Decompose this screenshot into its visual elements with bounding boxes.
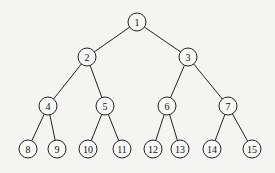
tree-edge-4-8 bbox=[32, 114, 44, 141]
node-label: 12 bbox=[148, 144, 158, 155]
tree-edge-2-5 bbox=[90, 65, 102, 97]
node-label: 3 bbox=[186, 52, 191, 63]
node-label: 15 bbox=[247, 144, 257, 155]
tree-node-6: 6 bbox=[158, 97, 176, 115]
node-label: 8 bbox=[26, 144, 31, 155]
tree-node-4: 4 bbox=[39, 97, 57, 115]
tree-node-5: 5 bbox=[96, 97, 114, 115]
binary-tree-diagram: 123456789101112131415 bbox=[0, 0, 275, 173]
node-label: 2 bbox=[85, 52, 90, 63]
tree-node-14: 14 bbox=[203, 140, 221, 158]
tree-nodes: 123456789101112131415 bbox=[19, 13, 261, 158]
node-label: 5 bbox=[103, 101, 108, 112]
tree-edge-3-6 bbox=[171, 65, 185, 97]
tree-edges bbox=[32, 27, 248, 141]
node-label: 11 bbox=[117, 144, 127, 155]
tree-node-2: 2 bbox=[78, 48, 96, 66]
tree-edge-4-9 bbox=[50, 115, 55, 140]
tree-node-3: 3 bbox=[179, 48, 197, 66]
tree-node-10: 10 bbox=[79, 140, 97, 158]
node-label: 10 bbox=[83, 144, 93, 155]
node-label: 4 bbox=[46, 101, 51, 112]
tree-node-9: 9 bbox=[48, 140, 66, 158]
tree-edge-1-2 bbox=[94, 27, 129, 52]
node-label: 1 bbox=[135, 17, 140, 28]
tree-node-1: 1 bbox=[128, 13, 146, 31]
node-label: 7 bbox=[226, 101, 231, 112]
tree-edge-1-3 bbox=[144, 27, 180, 52]
tree-node-12: 12 bbox=[144, 140, 162, 158]
tree-node-13: 13 bbox=[171, 140, 189, 158]
node-label: 9 bbox=[55, 144, 60, 155]
tree-edge-6-12 bbox=[156, 115, 164, 141]
tree-node-15: 15 bbox=[243, 140, 261, 158]
tree-edge-6-13 bbox=[170, 115, 178, 141]
tree-edge-5-10 bbox=[91, 114, 101, 140]
tree-edge-7-14 bbox=[215, 114, 225, 140]
tree-node-7: 7 bbox=[219, 97, 237, 115]
tree-edge-3-7 bbox=[194, 64, 223, 99]
node-label: 14 bbox=[207, 144, 217, 155]
tree-node-8: 8 bbox=[19, 140, 37, 158]
tree-edge-2-4 bbox=[54, 64, 82, 99]
tree-node-11: 11 bbox=[113, 140, 131, 158]
tree-edge-7-15 bbox=[232, 114, 247, 141]
node-label: 6 bbox=[165, 101, 170, 112]
node-label: 13 bbox=[175, 144, 185, 155]
tree-edge-5-11 bbox=[108, 114, 118, 140]
